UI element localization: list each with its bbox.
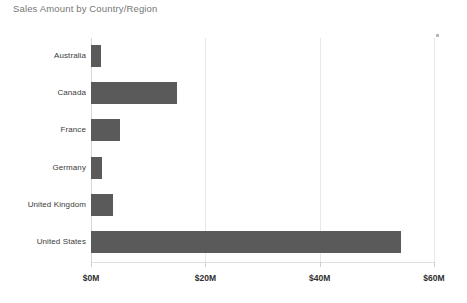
- bar[interactable]: [91, 231, 401, 253]
- chart-container: Sales Amount by Country/Region $0M$20M$4…: [0, 0, 467, 303]
- category-label: Germany: [52, 163, 86, 172]
- category-label: United Kingdom: [28, 200, 86, 209]
- x-axis-tick: [91, 262, 92, 267]
- x-axis-tick-label: $0M: [83, 273, 100, 283]
- gridline: [434, 38, 435, 262]
- chart-title: Sales Amount by Country/Region: [13, 3, 157, 14]
- x-axis-tick: [205, 262, 206, 267]
- x-axis-line: [91, 262, 434, 263]
- x-axis-tick: [434, 262, 435, 267]
- bar[interactable]: [91, 157, 102, 179]
- category-label: United States: [37, 237, 86, 246]
- x-axis-tick-label: $60M: [423, 273, 444, 283]
- x-axis-tick: [320, 262, 321, 267]
- category-label: Canada: [57, 88, 86, 97]
- x-axis-tick-label: $40M: [309, 273, 330, 283]
- category-label: France: [61, 125, 87, 134]
- bar[interactable]: [91, 119, 120, 141]
- bar[interactable]: [91, 194, 113, 216]
- category-label: Australia: [54, 51, 86, 60]
- bar[interactable]: [91, 45, 101, 67]
- plot-area: [91, 38, 434, 262]
- corner-mark-icon: [436, 34, 439, 37]
- bar[interactable]: [91, 82, 177, 104]
- x-axis-tick-label: $20M: [195, 273, 216, 283]
